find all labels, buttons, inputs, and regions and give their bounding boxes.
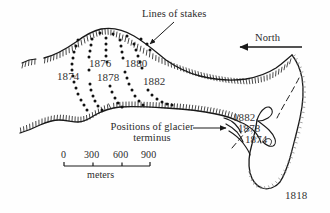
terminus-year-label-1818: 1818: [285, 190, 307, 202]
terminus-year-label-1874: 1874: [245, 134, 267, 146]
stakes-leader-line: [150, 22, 174, 44]
terminus-annotation-line2: terminus: [133, 132, 171, 143]
stake-year-label-1874: 1874: [57, 71, 79, 83]
stakes-annotation-label: Lines of stakes: [142, 8, 207, 19]
compass-north-label: North: [255, 32, 280, 43]
scale-tick-label-900: 900: [141, 150, 156, 161]
stake-year-label-1876: 1876: [89, 58, 111, 70]
stake-year-label-1880: 1880: [125, 58, 147, 70]
terminus-annotation-line1: Positions of glacier: [110, 121, 193, 132]
stake-year-label-1882: 1882: [143, 76, 165, 88]
scale-unit-label: meters: [87, 170, 114, 181]
stake-year-label-1878: 1878: [97, 72, 119, 84]
terminus-annotation-label: Positions of glacier terminus: [106, 121, 198, 143]
scale-tick-label-300: 300: [84, 150, 99, 161]
scale-tick-label-600: 600: [113, 150, 128, 161]
map-drawing: [0, 0, 330, 213]
stake-dots: [71, 32, 174, 112]
glacier-map-figure: Lines of stakes Positions of glacier ter…: [0, 0, 330, 213]
scale-bar: [64, 162, 150, 166]
scale-tick-label-0: 0: [61, 150, 66, 161]
